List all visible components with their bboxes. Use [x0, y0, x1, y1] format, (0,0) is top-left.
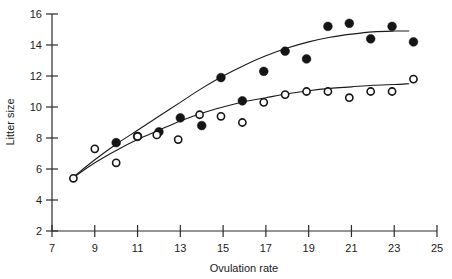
data-point-open: [134, 133, 141, 140]
data-point-filled: [176, 113, 185, 122]
x-axis: 791113151719212325: [49, 225, 443, 254]
y-tick-label: 6: [36, 163, 42, 175]
x-tick-label: 25: [431, 242, 443, 254]
data-point-filled: [217, 73, 226, 82]
y-axis-title: Litter size: [4, 98, 16, 145]
x-tick-label: 19: [303, 242, 315, 254]
series-filled-circles: [112, 19, 418, 147]
x-tick-label: 15: [217, 242, 229, 254]
data-point-filled: [197, 121, 206, 130]
x-tick-label: 23: [388, 242, 400, 254]
data-point-filled: [366, 34, 375, 43]
series-open-circles: [70, 76, 417, 182]
y-tick-labels: 246810121416: [30, 8, 42, 237]
data-point-filled: [259, 67, 268, 76]
data-point-open: [260, 99, 267, 106]
data-points-group: [70, 19, 418, 182]
data-point-open: [239, 119, 246, 126]
data-point-open: [303, 88, 310, 95]
data-point-open: [217, 113, 224, 120]
chart-figure: 246810121416 791113151719212325 Ovulatio…: [0, 0, 452, 279]
data-point-filled: [324, 22, 333, 31]
y-tick-label: 14: [30, 39, 42, 51]
x-tick-labels: 791113151719212325: [49, 242, 443, 254]
x-tick-label: 7: [49, 242, 55, 254]
data-point-filled: [302, 55, 311, 64]
data-point-open: [113, 159, 120, 166]
y-tick-label: 16: [30, 8, 42, 20]
data-point-filled: [409, 38, 418, 47]
data-point-filled: [345, 19, 354, 28]
x-tick-label: 13: [174, 242, 186, 254]
y-tick-label: 8: [36, 132, 42, 144]
y-tick-label: 4: [36, 194, 42, 206]
data-point-open: [367, 88, 374, 95]
data-point-open: [196, 111, 203, 118]
x-tick-label: 21: [345, 242, 357, 254]
x-tick-label: 11: [132, 242, 143, 254]
data-point-filled: [281, 47, 290, 56]
data-point-open: [282, 91, 289, 98]
data-point-open: [410, 76, 417, 83]
data-point-filled: [112, 138, 121, 147]
data-point-open: [346, 94, 353, 101]
data-point-open: [175, 136, 182, 143]
data-point-open: [324, 88, 331, 95]
data-point-filled: [238, 96, 247, 105]
x-axis-title: Ovulation rate: [210, 262, 278, 274]
x-tick-label: 9: [92, 242, 98, 254]
data-point-filled: [388, 22, 397, 31]
data-point-open: [70, 175, 77, 182]
data-point-open: [91, 145, 98, 152]
y-tick-label: 10: [30, 101, 42, 113]
scatter-plot: 246810121416 791113151719212325 Ovulatio…: [0, 0, 452, 279]
y-axis: 246810121416: [30, 8, 58, 237]
data-point-open: [153, 131, 160, 138]
data-point-open: [388, 88, 395, 95]
x-tick-label: 17: [260, 242, 272, 254]
y-tick-label: 2: [36, 225, 42, 237]
y-tick-label: 12: [30, 70, 42, 82]
